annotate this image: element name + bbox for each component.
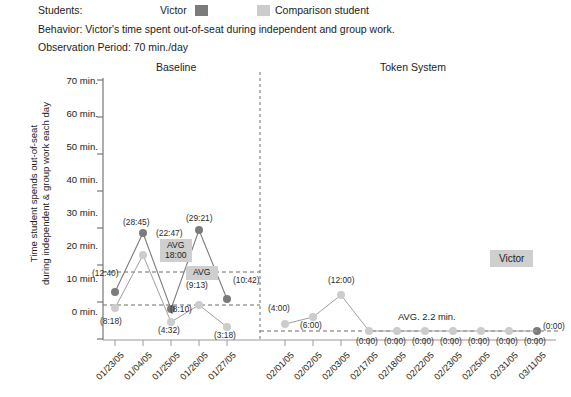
point-label-victor-14: (0:00) — [543, 321, 565, 331]
point-label-victor-4: (10:42) — [233, 275, 260, 285]
point-label-comparison-0: (8:18) — [100, 316, 122, 326]
point-label-comparison-9: (0:00) — [384, 336, 406, 346]
point-label-comparison-4: (3:18) — [214, 330, 236, 340]
avg-box-baseline: AVG 18:00 — [160, 239, 192, 262]
avg-box-token-baseline: AVG — [186, 266, 218, 280]
victor-annotation-box: Victor — [490, 250, 533, 267]
point-label-comparison-10: (0:00) — [412, 336, 434, 346]
point-label-victor-0: (12:40) — [92, 268, 119, 278]
point-label-victor-2: (8:10) — [170, 304, 192, 314]
point-label-comparison-6: (6:00) — [300, 320, 322, 330]
avg-box-baseline-value: 18:00 — [165, 251, 187, 261]
avg-token-inline-label: AVG. 2.2 min. — [398, 311, 456, 322]
point-label-comparison-7: (12:00) — [328, 275, 355, 285]
point-label-comparison-3: (9:13) — [186, 280, 208, 290]
point-label-comparison-12: (0:00) — [468, 336, 490, 346]
point-label-victor-1: (28:45) — [123, 217, 150, 227]
chart-area: Time student spends out-of-seat during i… — [0, 0, 571, 397]
point-label-comparison-2: (4:32) — [158, 325, 180, 335]
y-tick-marks — [97, 80, 103, 339]
point-label-comparison-13: (0:00) — [496, 336, 518, 346]
point-label-comparison-5: (4:00) — [268, 303, 290, 313]
point-label-comparison-1: (22:47) — [156, 228, 183, 238]
point-label-comparison-8: (0:00) — [356, 336, 378, 346]
avg-box-token-baseline-title: AVG — [193, 268, 211, 278]
point-label-comparison-11: (0:00) — [440, 336, 462, 346]
chart-page: Students: Victor Comparison student Beha… — [0, 0, 571, 397]
point-label-victor-3: (29:21) — [186, 213, 213, 223]
point-label-comparison-14-zero: (0:00) — [524, 336, 546, 346]
